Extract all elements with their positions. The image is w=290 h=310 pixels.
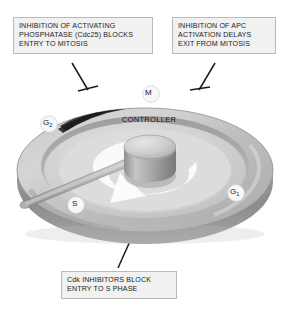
dial-body <box>17 86 273 244</box>
callout-line: ACTIVATION DELAYS <box>178 31 270 40</box>
callout-line: Cdk INHIBITORS BLOCK <box>67 276 171 285</box>
phase-label-m: M <box>145 89 152 97</box>
phase-label-subscript: 2 <box>49 122 52 128</box>
disc-ground-shadow <box>25 224 265 244</box>
leader-line-top-left <box>72 63 98 91</box>
callout-line: ENTRY TO MITOSIS <box>19 40 147 49</box>
callout-line: INHIBITION OF APC <box>178 22 270 31</box>
phase-label-g1: G1 <box>230 188 239 196</box>
callout-line: ENTRY TO S PHASE <box>67 285 171 294</box>
callout-line: PHOSPHATASE (Cdc25) BLOCKS <box>19 31 147 40</box>
phase-label-text: M <box>145 88 152 97</box>
cell-cycle-dial-figure: INHIBITION OF ACTIVATING PHOSPHATASE (Cd… <box>0 0 290 310</box>
callout-inhibition-of-activating-phosphatase: INHIBITION OF ACTIVATING PHOSPHATASE (Cd… <box>13 17 153 54</box>
controller-hub <box>124 135 176 188</box>
phase-label-s: S <box>72 200 77 208</box>
controller-label: CONTROLLER <box>112 116 186 124</box>
phase-label-text: S <box>72 199 77 208</box>
leader-line-top-right <box>190 63 215 90</box>
phase-label-subscript: 1 <box>236 191 239 197</box>
callout-line: INHIBITION OF ACTIVATING <box>19 22 147 31</box>
callout-cdk-inhibitors-block: Cdk INHIBITORS BLOCK ENTRY TO S PHASE <box>61 271 177 299</box>
callout-inhibition-of-apc-activation: INHIBITION OF APC ACTIVATION DELAYS EXIT… <box>172 17 276 54</box>
phase-label-g2: G2 <box>43 119 52 127</box>
callout-line: EXIT FROM MITOSIS <box>178 40 270 49</box>
